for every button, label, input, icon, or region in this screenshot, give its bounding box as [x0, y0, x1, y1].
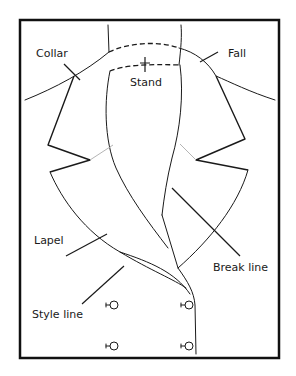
right-collar-edge	[196, 76, 248, 170]
right-gorge-seam	[180, 144, 196, 160]
left-collar-edge	[48, 76, 90, 172]
front-edge	[162, 215, 196, 354]
break-line	[172, 188, 240, 256]
label-lapel: Lapel	[34, 234, 64, 247]
button-icon	[106, 342, 118, 350]
left-inner-neck-curve	[106, 71, 168, 248]
button-icon	[181, 301, 193, 309]
label-stand: Stand	[130, 76, 162, 89]
collar-diagram: Collar Fall Stand Lapel Break line Style…	[0, 0, 296, 376]
button-icon	[106, 301, 118, 309]
label-style-line: Style line	[32, 308, 83, 321]
left-gorge-seam	[90, 145, 113, 160]
label-collar: Collar	[36, 47, 68, 60]
right-inner-neck-curve	[162, 65, 182, 215]
style-line-leader	[82, 266, 124, 304]
lapel-leader	[66, 234, 107, 256]
label-break-line: Break line	[213, 261, 268, 274]
fall-leader	[200, 52, 218, 62]
button-icon	[181, 342, 193, 350]
right-shoulder-line	[179, 48, 275, 100]
label-fall: Fall	[228, 47, 246, 60]
